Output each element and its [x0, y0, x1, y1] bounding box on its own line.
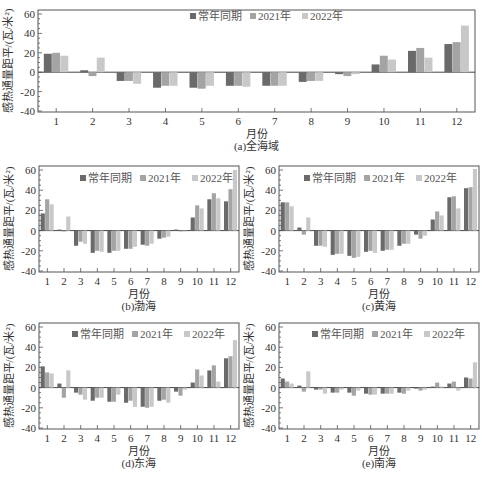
legend-swatch: [372, 331, 378, 337]
y-axis-title: 感热通量距平/(瓦/米²): [243, 323, 256, 428]
chart-svg: -40-200204060123456789101112常年同期2021年202…: [0, 0, 482, 480]
bar: [290, 384, 294, 388]
bar: [373, 388, 377, 395]
x-tick-label: 5: [351, 432, 357, 444]
bar: [314, 388, 318, 390]
bar: [468, 379, 472, 388]
bar: [331, 388, 335, 393]
bar: [385, 388, 389, 394]
x-tick-label: 3: [318, 432, 324, 444]
x-tick-label: 11: [449, 432, 460, 444]
legend-label: 2021年: [380, 327, 413, 340]
y-tick-label: 20: [265, 361, 277, 373]
x-tick-label: 9: [418, 432, 424, 444]
bar: [318, 388, 322, 390]
legend-label: 常年同期: [320, 327, 364, 340]
bar: [456, 388, 460, 391]
bar: [323, 388, 327, 394]
x-tick-label: 8: [401, 432, 407, 444]
x-tick-label: 2: [301, 432, 307, 444]
x-tick-label: 6: [368, 432, 374, 444]
legend-swatch: [312, 331, 318, 337]
bar: [381, 388, 385, 394]
y-tick-label: 60: [265, 321, 277, 333]
bar: [423, 388, 427, 390]
bar: [452, 382, 456, 388]
bar: [473, 362, 477, 387]
bar: [306, 371, 310, 387]
y-tick-label: 40: [265, 341, 277, 353]
bar: [347, 388, 351, 393]
bar: [335, 388, 339, 393]
y-tick-label: 0: [271, 382, 277, 394]
legend-label: 2022年: [432, 327, 465, 340]
bar: [464, 378, 468, 388]
bar: [440, 387, 444, 388]
x-tick-label: 7: [385, 432, 391, 444]
x-axis-title: 月份: [368, 445, 390, 457]
y-tick-label: -40: [261, 422, 276, 434]
bar: [402, 388, 406, 394]
x-tick-label: 1: [285, 432, 291, 444]
panel-caption: (e)南海: [362, 456, 396, 470]
bar: [447, 384, 451, 388]
x-tick-label: 12: [465, 432, 476, 444]
bar: [406, 388, 410, 391]
bar: [368, 388, 372, 395]
x-tick-label: 4: [335, 432, 341, 444]
legend-swatch: [424, 331, 430, 337]
y-tick-label: -20: [261, 402, 276, 414]
bar: [302, 388, 306, 392]
bar: [356, 388, 360, 391]
bar: [414, 388, 418, 389]
bar: [281, 379, 285, 388]
bar: [431, 387, 435, 388]
bar: [340, 388, 344, 390]
bar: [397, 388, 401, 393]
bar: [390, 388, 394, 394]
bar: [418, 388, 422, 391]
bar: [352, 388, 356, 396]
x-tick-label: 10: [432, 432, 444, 444]
bar: [435, 383, 439, 388]
bar: [364, 388, 368, 394]
bar: [285, 382, 289, 388]
bar: [297, 386, 301, 388]
